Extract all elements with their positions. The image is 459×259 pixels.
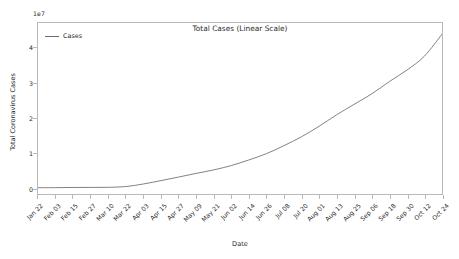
series-line-cases [38, 23, 442, 194]
x-tick-mark [425, 195, 426, 199]
x-tick-mark [408, 195, 409, 199]
x-tick-mark [214, 195, 215, 199]
legend-line-swatch [45, 36, 59, 37]
y-tick-mark [33, 189, 37, 190]
x-tick-mark [108, 195, 109, 199]
chart-legend: Cases [42, 31, 85, 41]
x-tick-mark [337, 195, 338, 199]
plot-area [37, 22, 443, 195]
x-tick-mark [284, 195, 285, 199]
x-tick-mark [390, 195, 391, 199]
x-tick-mark [196, 195, 197, 199]
y-axis-offset-text: 1e7 [33, 10, 45, 17]
y-tick-mark [33, 153, 37, 154]
legend-label-cases: Cases [63, 32, 82, 40]
y-tick-mark [33, 47, 37, 48]
chart-title: Total Cases (Linear Scale) [37, 24, 443, 33]
x-tick-mark [143, 195, 144, 199]
x-tick-mark [266, 195, 267, 199]
x-axis-label: Date [37, 240, 443, 248]
x-tick-mark [161, 195, 162, 199]
x-tick-mark [443, 195, 444, 199]
x-tick-mark [37, 195, 38, 199]
y-tick-mark [33, 118, 37, 119]
x-tick-mark [55, 195, 56, 199]
x-tick-mark [249, 195, 250, 199]
x-tick-mark [319, 195, 320, 199]
x-tick-mark [90, 195, 91, 199]
chart-figure: 1e7 Total Coronavirus Cases 01234 Jan 22… [0, 0, 459, 259]
x-tick-mark [302, 195, 303, 199]
x-tick-mark [178, 195, 179, 199]
x-tick-mark [72, 195, 73, 199]
x-tick-mark [231, 195, 232, 199]
x-tick-mark [125, 195, 126, 199]
x-tick-mark [355, 195, 356, 199]
x-tick-mark [372, 195, 373, 199]
y-tick-mark [33, 83, 37, 84]
